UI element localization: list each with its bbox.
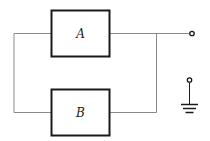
block-a: A [52, 11, 110, 57]
block-b-label: B [75, 106, 85, 120]
output-terminal-icon [190, 31, 194, 35]
block-a-label: A [75, 27, 85, 41]
ground-icon [181, 78, 198, 113]
block-b: B [52, 90, 110, 136]
circuit-diagram: A B [0, 0, 210, 141]
